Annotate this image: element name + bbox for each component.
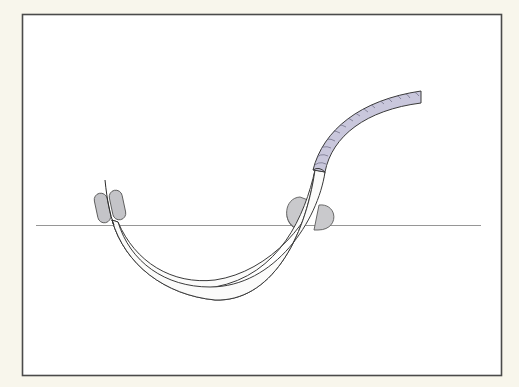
frame <box>23 15 502 376</box>
diagram-svg <box>0 0 519 387</box>
diagram-canvas: Medical illustration: curved catheter/tu… <box>0 0 519 387</box>
